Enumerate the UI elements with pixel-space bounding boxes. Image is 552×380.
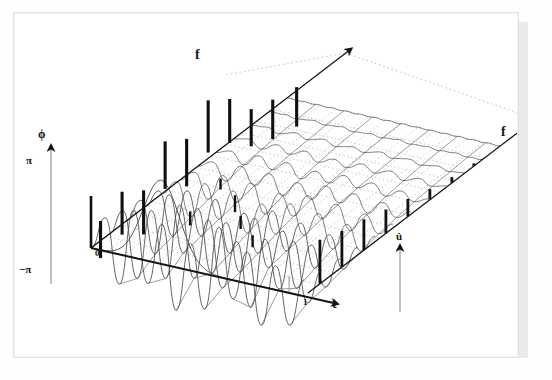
time-axis-label: t	[332, 296, 337, 311]
phase-tick-pi: π	[26, 154, 32, 166]
timefrequency-diagram: f f t 1 ϕ π −π 0 û	[13, 12, 517, 356]
waterfall-mesh	[91, 98, 500, 325]
figure-stage: f f t 1 ϕ π −π 0 û	[0, 0, 552, 380]
figure-canvas: f f t 1 ϕ π −π 0 û	[13, 12, 517, 356]
frequency-axis-right-label: f	[501, 124, 506, 139]
time-axis-tick-1: 1	[303, 297, 308, 307]
plane-edges	[91, 53, 517, 296]
magnitude-axis-label: û	[396, 230, 402, 242]
phase-axis-label: ϕ	[38, 127, 46, 141]
origin-tick-zero: 0	[95, 248, 100, 258]
phase-tick-minus-pi: −π	[19, 263, 31, 275]
frequency-axis-back-label: f	[195, 47, 200, 62]
